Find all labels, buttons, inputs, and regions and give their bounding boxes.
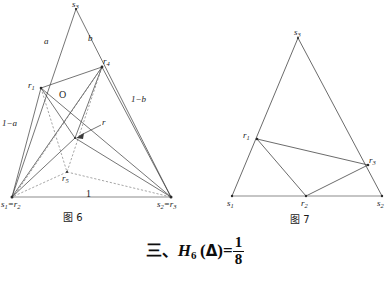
label-fig7-r3: r3 [369, 156, 376, 165]
formula-delta-icon: Δ [206, 242, 218, 260]
label-fig7-s3: s3 [294, 28, 301, 37]
label-fig7-r2: r2 [301, 199, 308, 208]
formula-function-name: H [178, 241, 191, 260]
formula-line: 三、H6 (Δ)=18 [0, 236, 390, 269]
formula-fraction: 18 [233, 235, 245, 268]
formula-section-marker: 三、 [146, 241, 178, 260]
diagram-page: s3 r1 r4 r5 r s1=r2 s2=r3 a b 1−a 1−b 1 … [0, 0, 390, 283]
vertex-dots-fig7 [231, 37, 383, 197]
label-fig7-s2: s2 [377, 199, 384, 208]
label-fig7-s1: s1 [227, 199, 234, 208]
fig7-edge-r1-r2 [257, 139, 306, 196]
fig7-edge-s3-s2 [298, 38, 382, 196]
formula-denominator: 8 [233, 252, 245, 268]
formula-equals: = [223, 241, 233, 260]
formula-subscript: 6 [191, 249, 197, 261]
formula-numerator: 1 [233, 235, 245, 252]
label-fig7-r1: r1 [243, 131, 250, 140]
caption-figure-7: 图 7 [290, 211, 310, 226]
fig7-edge-s3-s1 [232, 38, 298, 196]
fig7-edge-r2-r3 [306, 165, 368, 196]
fig7-edge-r1-r3 [257, 139, 368, 165]
